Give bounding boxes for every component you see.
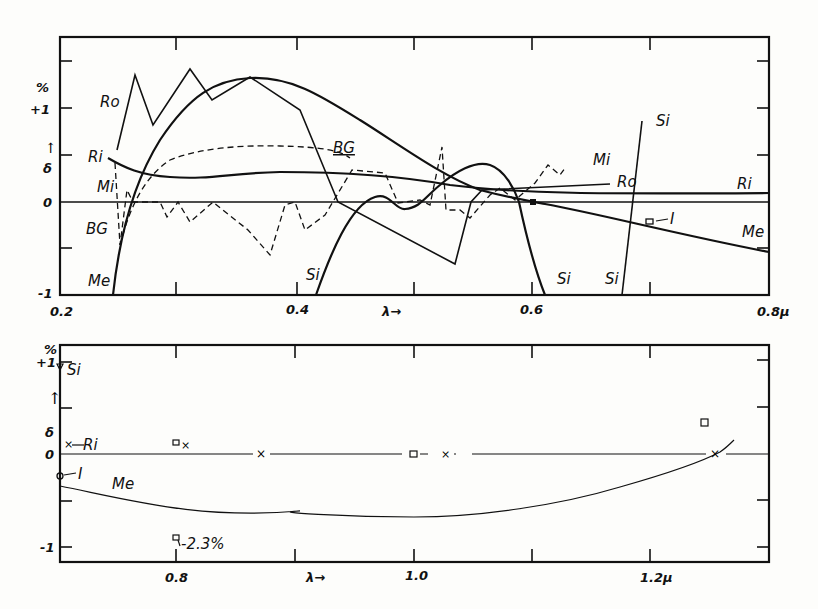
x-tick-0-8-bottom: 0.8 — [165, 570, 188, 585]
label-mi-2: Mi — [593, 151, 611, 169]
marker-i-0-8 — [173, 440, 179, 445]
marker-point — [530, 199, 536, 205]
label-ri-bottom: Ri — [83, 436, 98, 454]
y-tick-plus1: +1 — [30, 102, 50, 117]
label-me-2: Me — [742, 223, 764, 241]
arrow-i — [656, 219, 668, 221]
series-si-ir — [622, 121, 642, 295]
y-tick-minus1: -1 — [38, 286, 52, 301]
top-frame — [60, 37, 769, 295]
series-ro — [117, 69, 610, 264]
label-ri-2: Ri — [737, 175, 752, 193]
marker-i — [646, 219, 653, 224]
label-si-bottom: Si — [67, 361, 82, 379]
series-si — [316, 164, 545, 295]
label-ri: Ri — [88, 148, 103, 166]
y-tick-zero: 0 — [43, 195, 52, 210]
marker-i-1-0 — [410, 451, 417, 457]
marker-x-1-25: × — [710, 447, 720, 461]
marker-x-0-8: × — [181, 439, 190, 452]
marker-offscale — [173, 535, 179, 540]
arrow-i-bottom — [64, 473, 76, 475]
y-tick-plus1-bottom: +1 — [36, 355, 56, 370]
marker-x-0-88: × — [256, 447, 266, 461]
y-label-delta-bottom: δ — [45, 425, 54, 440]
series-me — [113, 78, 769, 295]
label-me-bottom: Me — [112, 475, 134, 493]
x-tick-1-2-bottom: 1.2μ — [640, 570, 673, 585]
label-mi: Mi — [97, 178, 115, 196]
y-label-delta: δ — [43, 161, 52, 176]
label-i-bottom: I — [78, 465, 83, 483]
x-axis-label: λ→ — [381, 304, 401, 319]
series-bg — [120, 146, 350, 245]
marker-ri-x: × — [64, 438, 73, 451]
label-si-2: Si — [557, 270, 572, 288]
x-tick-1-0-bottom: 1.0 — [405, 568, 428, 583]
series-me-ir — [60, 440, 734, 517]
label-bg: BG — [86, 220, 108, 238]
top-x-ticks — [176, 37, 650, 295]
label-offscale: -2.3% — [181, 535, 225, 553]
label-bg-center: BG — [333, 139, 355, 157]
marker-x-1-04: × — [441, 448, 450, 461]
series-ri — [108, 158, 769, 193]
label-ro: Ro — [100, 93, 120, 111]
bottom-panel: × × × × × Si Ri I Me -2.3% % +1 ↑ δ 0 -1… — [36, 342, 769, 585]
x-tick-0-8: 0.8μ — [757, 304, 790, 319]
x-axis-label-bottom: λ→ — [305, 570, 325, 585]
label-si-4: Si — [656, 112, 671, 130]
y-arrow-up-icon: ↑ — [45, 140, 57, 156]
x-tick-0-6: 0.6 — [520, 302, 543, 317]
arrow-offscale-icon — [178, 540, 180, 546]
y-tick-minus1-bottom: -1 — [40, 540, 54, 555]
y-tick-zero-bottom: 0 — [45, 447, 54, 462]
x-tick-0-2: 0.2 — [50, 304, 73, 319]
label-i: I — [670, 210, 675, 228]
y-unit-percent: % — [36, 80, 49, 95]
label-si-3: Si — [605, 270, 620, 288]
label-ro-2: Ro — [617, 173, 637, 191]
marker-i-1-24 — [701, 419, 708, 426]
label-me: Me — [88, 272, 110, 290]
y-arrow-up-icon-bottom: ↑ — [48, 389, 61, 408]
top-panel: Ro Ri Mi BG Me BG Si Si Si Si Mi Ro Ri I… — [30, 37, 790, 319]
x-tick-0-4: 0.4 — [286, 302, 309, 317]
figure: Ro Ri Mi BG Me BG Si Si Si Si Mi Ro Ri I… — [0, 0, 818, 609]
label-si-1: Si — [306, 266, 321, 284]
